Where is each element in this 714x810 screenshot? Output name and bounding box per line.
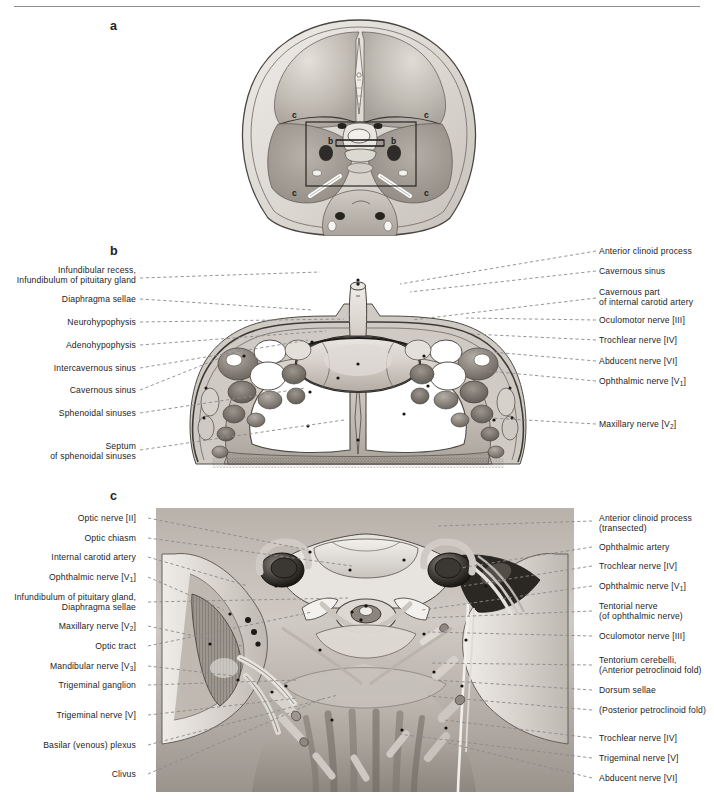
svg-text:b: b <box>391 136 396 146</box>
header-rule <box>14 6 700 7</box>
label-panel_b-right-anterior-clinoid-process: Anterior clinoid process <box>599 246 692 256</box>
label-panel_c-left-optic-tract: Optic tract <box>0 641 136 651</box>
svg-text:c: c <box>292 110 297 120</box>
label-panel_c-left-maxillary-nerve-v2: Maxillary nerve [V2] <box>0 621 136 632</box>
panel-letter-c: c <box>110 490 117 503</box>
svg-text:c: c <box>424 188 429 198</box>
label-panel_b-right-maxillary-nerve-v2: Maxillary nerve [V2] <box>599 419 676 430</box>
svg-text:b: b <box>328 136 333 146</box>
panel-letter-a: a <box>110 20 117 33</box>
label-panel_c-left-optic-chiasm: Optic chiasm <box>0 533 136 543</box>
label-panel_c-right-oculomotor-nerve-iii: Oculomotor nerve [III] <box>599 631 685 641</box>
label-panel_c-left-trigeminal-ganglion: Trigeminal ganglion <box>0 680 136 690</box>
svg-text:c: c <box>292 188 297 198</box>
panel-b-illustration <box>172 268 544 480</box>
label-panel_b-right-oculomotor-nerve-iii: Oculomotor nerve [III] <box>599 315 685 325</box>
label-panel_c-left-basilar-venous-plexus: Basilar (venous) plexus <box>0 740 136 750</box>
label-panel_c-right-tentorial-nerve: Tentorial nerve(of ophthalmic nerve) <box>599 601 683 621</box>
label-panel_c-right-ophthalmic-artery: Ophthalmic artery <box>599 542 669 552</box>
label-panel_c-right-dorsum-sellae: Dorsum sellae <box>599 685 656 695</box>
label-panel_b-left-infundibular-recess: Infundibular recess,Infundibulum of pitu… <box>0 265 136 285</box>
label-panel_c-left-optic-nerve-ii: Optic nerve [II] <box>0 513 136 523</box>
panel-a-illustration: c c b b c c <box>228 18 490 236</box>
label-panel_b-right-ophthalmic-nerve-v1: Ophthalmic nerve [V1] <box>599 376 686 387</box>
label-panel_c-left-internal-carotid-artery: Internal carotid artery <box>0 552 136 562</box>
label-panel_b-right-cavernous-part: Cavernous partof internal carotid artery <box>599 287 693 307</box>
label-panel_c-left-ophthalmic-nerve-v1: Ophthalmic nerve [V1] <box>0 572 136 583</box>
label-panel_c-right-posterior-petroclinoid-fold: (Posterior petroclinoid fold) <box>599 705 706 715</box>
figure-page: a b c <box>0 0 714 810</box>
panel-c-illustration <box>156 508 574 792</box>
label-panel_c-left-clivus: Clivus <box>0 769 136 779</box>
label-panel_b-right-abducent-nerve-vi: Abducent nerve [VI] <box>599 356 677 366</box>
label-panel_b-left-septum: Septumof sphenoidal sinuses <box>0 441 136 461</box>
label-panel_c-right-trigeminal-nerve-v: Trigeminal nerve [V] <box>599 753 679 763</box>
label-panel_c-left-trigeminal-nerve-v: Trigeminal nerve [V] <box>0 710 136 720</box>
label-panel_b-right-trochlear-nerve-iv: Trochlear nerve [IV] <box>599 335 677 345</box>
svg-text:c: c <box>424 110 429 120</box>
label-panel_c-right-anterior-clinoid-process: Anterior clinoid process(transected) <box>599 513 692 533</box>
label-panel_c-left-infundibulum-of-pituitary-gland: Infundibulum of pituitary gland,Diaphrag… <box>0 592 136 612</box>
label-panel_b-left-neurohypophysis: Neurohypophysis <box>0 317 136 327</box>
label-panel_b-left-adenohypophysis: Adenohypophysis <box>0 340 136 350</box>
label-panel_c-right-trochlear-nerve-iv: Trochlear nerve [IV] <box>599 733 677 743</box>
label-panel_c-right-abducent-nerve-vi: Abducent nerve [VI] <box>599 773 677 783</box>
label-panel_b-left-intercavernous-sinus: Intercavernous sinus <box>0 363 136 373</box>
label-panel_c-right-ophthalmic-nerve-v1: Ophthalmic nerve [V1] <box>599 581 686 592</box>
label-panel_c-left-mandibular-nerve-v3: Mandibular nerve [V3] <box>0 661 136 672</box>
label-panel_c-right-trochlear-nerve-iv: Trochlear nerve [IV] <box>599 561 677 571</box>
label-panel_b-left-diaphragma-sellae: Diaphragma sellae <box>0 294 136 304</box>
label-panel_b-right-cavernous-sinus: Cavernous sinus <box>599 266 665 276</box>
label-panel_b-left-sphenoidal-sinuses: Sphenoidal sinuses <box>0 408 136 418</box>
label-panel_b-left-cavernous-sinus: Cavernous sinus <box>0 385 136 395</box>
label-panel_c-right-tentorium-cerebelli: Tentorium cerebelli,(Anterior petroclino… <box>599 655 702 675</box>
panel-letter-b: b <box>110 245 118 258</box>
